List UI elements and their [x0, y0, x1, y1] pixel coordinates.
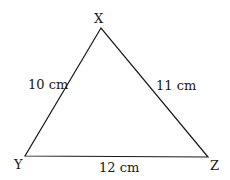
vertex-label-x: X	[94, 11, 104, 26]
vertex-label-z: Z	[210, 158, 219, 173]
triangle-diagram: X Y Z 10 cm 11 cm 12 cm	[0, 0, 230, 180]
side-label-xz: 11 cm	[156, 78, 196, 93]
side-label-xy: 10 cm	[28, 77, 68, 92]
triangle-figure: X Y Z 10 cm 11 cm 12 cm	[0, 0, 230, 180]
vertex-label-y: Y	[13, 157, 23, 172]
side-label-yz: 12 cm	[99, 160, 139, 175]
